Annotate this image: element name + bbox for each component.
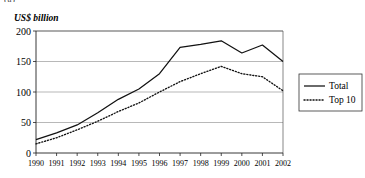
legend-label-total: Total: [329, 81, 349, 91]
x-tick-label: 1999: [213, 159, 229, 168]
legend: Total Top 10: [299, 74, 362, 111]
x-tick-labels: 1990199119921993199419951996199719981999…: [28, 159, 291, 168]
y-tick-label: 0: [26, 148, 31, 159]
series-line-top10: [36, 66, 283, 143]
x-tick-label: 1991: [49, 159, 65, 168]
x-tick-label: 1994: [110, 159, 126, 168]
x-tick-label: 1993: [90, 159, 106, 168]
x-tick-label: 1997: [172, 159, 188, 168]
x-tick-label: 1995: [131, 159, 147, 168]
x-tick-label: 2002: [275, 159, 291, 168]
x-tick-label: 2000: [234, 159, 250, 168]
gridlines: [36, 31, 283, 123]
x-tick-label: 1996: [152, 159, 168, 168]
y-tick-label: 100: [16, 87, 31, 98]
y-tick-label: 200: [16, 26, 31, 37]
figure-container: (a) US$ billion 050100150200 19901991199…: [0, 0, 365, 178]
legend-label-top10: Top 10: [329, 95, 356, 105]
x-tick-label: 1990: [28, 159, 44, 168]
x-tick-label: 1998: [193, 159, 209, 168]
y-tick-label: 150: [16, 56, 31, 67]
series-line-total: [36, 41, 283, 140]
y-tick-label: 50: [21, 117, 31, 128]
x-tick-label: 2001: [254, 159, 270, 168]
line-chart: 050100150200 199019911992199319941995199…: [0, 0, 365, 178]
y-tick-labels: 050100150200: [16, 26, 31, 159]
x-tick-label: 1992: [69, 159, 85, 168]
